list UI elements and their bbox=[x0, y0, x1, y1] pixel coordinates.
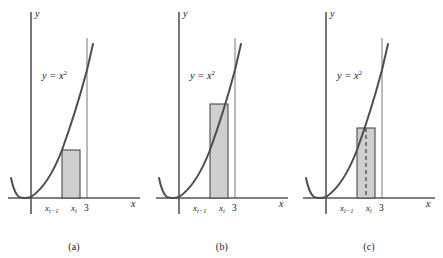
panel-b: y x y = x2 xi−1 xi 3 (b) bbox=[148, 0, 296, 258]
y-axis-label: y bbox=[329, 8, 335, 19]
riemann-rectangle bbox=[210, 104, 228, 198]
tick-label-x-i: xi bbox=[218, 203, 225, 214]
panel-c-plot: y x y = x2 xi−1 xi 3 bbox=[295, 0, 443, 258]
riemann-sum-figure: y x y = x2 xi−1 xi 3 (a) y x y = x2 xi−1… bbox=[0, 0, 443, 258]
y-axis-label: y bbox=[182, 8, 188, 19]
tick-label-x-i: xi bbox=[365, 203, 372, 214]
x-axis-label: x bbox=[130, 198, 136, 209]
parabola-curve bbox=[11, 44, 93, 198]
tick-label-three: 3 bbox=[379, 203, 384, 213]
tick-label-three: 3 bbox=[232, 203, 237, 213]
panel-c: y x y = x2 xi−1 xi 3 (c) bbox=[295, 0, 443, 258]
panel-b-plot: y x y = x2 xi−1 xi 3 bbox=[148, 0, 296, 258]
panel-b-caption: (b) bbox=[148, 241, 296, 252]
tick-label-x-i: xi bbox=[70, 203, 77, 214]
panel-a: y x y = x2 xi−1 xi 3 (a) bbox=[0, 0, 148, 258]
tick-label-three: 3 bbox=[84, 203, 89, 213]
tick-label-x-i-minus-1: xi−1 bbox=[44, 203, 58, 214]
function-label: y = x2 bbox=[41, 69, 67, 81]
panel-a-caption: (a) bbox=[0, 241, 148, 252]
panel-c-caption: (c) bbox=[295, 241, 443, 252]
parabola-curve bbox=[159, 44, 241, 198]
function-label: y = x2 bbox=[336, 69, 362, 81]
parabola-curve bbox=[306, 44, 388, 198]
tick-label-x-i-minus-1: xi−1 bbox=[192, 203, 206, 214]
y-axis-label: y bbox=[34, 8, 40, 19]
x-axis-label: x bbox=[425, 198, 431, 209]
x-axis-label: x bbox=[278, 198, 284, 209]
panel-a-plot: y x y = x2 xi−1 xi 3 bbox=[0, 0, 148, 258]
riemann-rectangle bbox=[62, 150, 80, 198]
function-label: y = x2 bbox=[189, 69, 215, 81]
tick-label-x-i-minus-1: xi−1 bbox=[339, 203, 353, 214]
